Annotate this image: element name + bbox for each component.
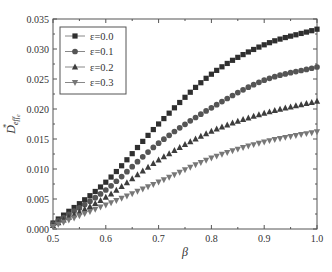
data-point [187, 138, 193, 144]
data-point [251, 47, 256, 52]
data-point [277, 136, 283, 142]
data-point [282, 105, 288, 111]
data-point [198, 133, 204, 139]
data-point [171, 172, 177, 178]
data-point [303, 100, 309, 106]
data-point [92, 207, 98, 213]
data-point [166, 132, 172, 138]
data-point [140, 167, 146, 173]
data-point [246, 84, 252, 90]
data-point [135, 145, 140, 150]
data-point [188, 90, 193, 95]
data-point [145, 149, 151, 155]
data-point [298, 101, 304, 107]
data-point [219, 99, 225, 105]
data-point [198, 160, 204, 166]
data-point [97, 205, 103, 211]
data-point [251, 82, 257, 88]
data-point [129, 164, 135, 170]
data-point [156, 121, 161, 126]
data-point [119, 163, 124, 168]
y-tick-label: 0.000 [27, 224, 50, 235]
legend-label: ε=0.1 [90, 46, 113, 57]
data-point [161, 136, 167, 142]
data-point [288, 70, 294, 76]
data-point [119, 174, 125, 180]
data-point [314, 27, 319, 32]
data-point [172, 105, 177, 110]
data-point [145, 164, 151, 170]
data-point [60, 220, 66, 226]
data-point [235, 90, 241, 96]
data-point [161, 153, 167, 159]
data-point [309, 28, 314, 33]
data-point [277, 106, 283, 112]
data-point [177, 100, 182, 105]
data-point [272, 74, 278, 80]
y-axis-label-text: Deffe* [2, 114, 21, 135]
data-point [272, 38, 277, 43]
y-axis-label: Deffe* [2, 114, 21, 135]
data-point [87, 203, 93, 209]
data-point [124, 169, 130, 175]
data-point [204, 76, 209, 81]
data-point [203, 158, 209, 164]
data-point [140, 154, 146, 160]
data-point [151, 127, 156, 132]
data-point [93, 189, 98, 194]
data-point [240, 145, 246, 151]
data-point [267, 75, 273, 81]
data-point [108, 174, 113, 179]
x-tick-label: 0.9 [258, 233, 271, 244]
data-point [299, 31, 304, 36]
data-point [261, 139, 267, 145]
data-point [150, 182, 156, 188]
data-point [303, 131, 309, 137]
data-point [293, 102, 299, 108]
data-point [82, 197, 87, 202]
data-point [266, 108, 272, 114]
data-point [124, 157, 129, 162]
data-point [114, 169, 119, 174]
data-point [187, 118, 193, 124]
data-point [134, 171, 140, 177]
data-point [287, 134, 293, 140]
data-point [192, 162, 198, 168]
y-tick-label: 0.010 [27, 164, 50, 175]
data-point [256, 44, 261, 49]
data-point [298, 68, 304, 74]
data-point [103, 180, 108, 185]
data-point [288, 34, 293, 39]
data-point [113, 187, 119, 193]
data-point [113, 198, 119, 204]
data-point [240, 116, 246, 122]
data-point [66, 218, 72, 224]
data-point [103, 194, 109, 200]
data-point [224, 150, 230, 156]
data-point [287, 103, 293, 109]
data-point [103, 202, 109, 208]
data-point [187, 165, 193, 171]
data-point [98, 184, 103, 189]
data-point [304, 29, 309, 34]
data-point [129, 191, 135, 197]
data-point [193, 85, 198, 90]
data-point [208, 128, 214, 134]
data-point [171, 147, 177, 153]
data-point [203, 130, 209, 136]
data-point [272, 137, 278, 143]
data-point [182, 167, 188, 173]
legend: ε=0.0ε=0.1ε=0.2ε=0.3 [60, 27, 126, 94]
data-point [256, 141, 262, 147]
data-point [261, 110, 267, 116]
data-point [82, 206, 88, 212]
data-point [208, 156, 214, 162]
data-point [230, 58, 235, 63]
data-point [214, 126, 220, 132]
y-tick-label: 0.005 [27, 194, 50, 205]
data-point [225, 61, 230, 66]
legend-marker [72, 33, 77, 38]
data-point [283, 35, 288, 40]
data-point [108, 190, 114, 196]
data-point [177, 125, 183, 131]
